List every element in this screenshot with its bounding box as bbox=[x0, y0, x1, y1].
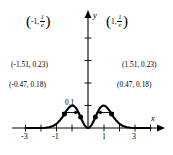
graph-figure: ( -1, 1 e ) ( 1, 1 e ) (-1.51, 0.23) (1.… bbox=[0, 0, 173, 155]
peak-right-x: 1, bbox=[111, 17, 117, 26]
peak-left-close-paren: ) bbox=[46, 15, 51, 27]
annotation-point-inner-right: (0.47, 0.18) bbox=[117, 81, 152, 88]
peak-right-numerator: 1 bbox=[117, 14, 122, 21]
x-tick-label-neg3: -3 bbox=[21, 133, 28, 141]
peak-left-x: -1, bbox=[31, 17, 39, 26]
x-tick-label-3: 3 bbox=[132, 133, 136, 141]
annotation-point-outer-right: (1.51, 0.23) bbox=[122, 61, 157, 68]
peak-right-fraction: 1 e bbox=[117, 14, 122, 28]
peak-left-denominator: e bbox=[40, 21, 45, 29]
annotation-point-outer-left: (-1.51, 0.23) bbox=[11, 61, 48, 68]
peak-right-denominator: e bbox=[117, 21, 122, 29]
y-axis bbox=[85, 10, 92, 128]
x-tick-label-1: 1 bbox=[102, 133, 106, 141]
y-axis-label: y bbox=[93, 11, 97, 20]
annotation-peak-left: ( -1, 1 e ) bbox=[26, 14, 51, 28]
peak-left-numerator: 1 bbox=[40, 14, 45, 21]
y-axis-value-label: 0.1 bbox=[65, 99, 74, 106]
annotation-peak-right: ( 1, 1 e ) bbox=[106, 14, 128, 28]
peak-left-fraction: 1 e bbox=[40, 14, 45, 28]
annotation-point-inner-left: (-0.47, 0.18) bbox=[9, 81, 46, 88]
x-tick-label-neg1: -1 bbox=[52, 133, 59, 141]
peak-right-close-paren: ) bbox=[123, 15, 128, 27]
x-axis-label: x bbox=[151, 114, 155, 123]
